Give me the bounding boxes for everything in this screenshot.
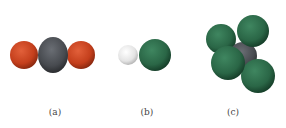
chlorine-atom — [211, 46, 245, 80]
chlorine-atom — [237, 15, 269, 47]
molecule-figure: (a) (b) (c) — [0, 0, 286, 128]
oxygen-atom — [10, 41, 38, 69]
panel-label-c: (c) — [227, 107, 239, 117]
hydrogen-atom — [118, 45, 138, 65]
panel-label-a: (a) — [49, 107, 61, 117]
chlorine-atom — [241, 59, 275, 93]
oxygen-atom — [67, 41, 95, 69]
molecule-a-co2 — [10, 37, 95, 73]
molecule-c-ccl4 — [206, 15, 275, 93]
molecule-b-hcl — [118, 39, 171, 71]
panel-label-b: (b) — [141, 107, 154, 117]
carbon-atom — [38, 37, 68, 73]
chlorine-atom — [139, 39, 171, 71]
